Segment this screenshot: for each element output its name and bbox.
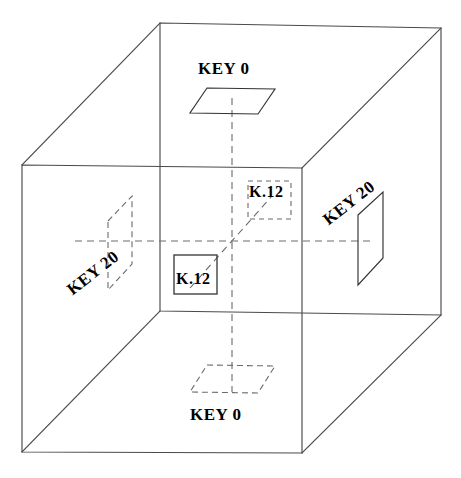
label-k12-upper: K.12 — [249, 184, 283, 200]
cube-edge-top-left — [22, 23, 160, 165]
cube-edge-top-right — [302, 28, 441, 168]
label-key0-top: KEY 0 — [198, 60, 249, 77]
cube-edge-bottom-left — [22, 311, 160, 452]
cube-edge-bottom-right — [302, 315, 441, 453]
cube-key-diagram: KEY 0 KEY 0 KEY 20 KEY 20 K.12 K.12 — [0, 0, 461, 478]
plane-key20-left — [108, 196, 132, 290]
plane-key20-right — [358, 192, 383, 285]
label-k12-lower: K.12 — [176, 271, 210, 287]
centre-axes — [75, 98, 375, 392]
label-key0-bottom: KEY 0 — [190, 406, 241, 423]
